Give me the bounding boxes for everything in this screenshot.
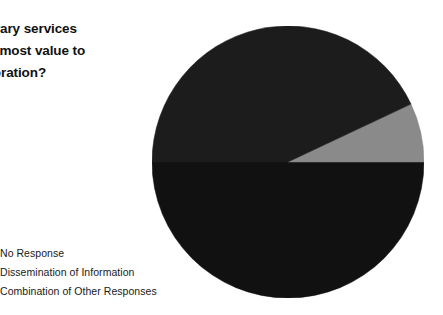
chart-legend: No Response Dissemination of Information… (0, 243, 197, 300)
legend-item-dissemination-of-information[interactable]: Dissemination of Information (0, 262, 197, 281)
legend-label-0: No Response (0, 247, 64, 259)
legend-item-combination-of-other-responses[interactable]: Combination of Other Responses (0, 281, 197, 300)
legend-label-2: Combination of Other Responses (0, 285, 157, 297)
legend-label-1: Dissemination of Information (0, 266, 134, 278)
legend-item-no-response[interactable]: No Response (0, 243, 197, 262)
